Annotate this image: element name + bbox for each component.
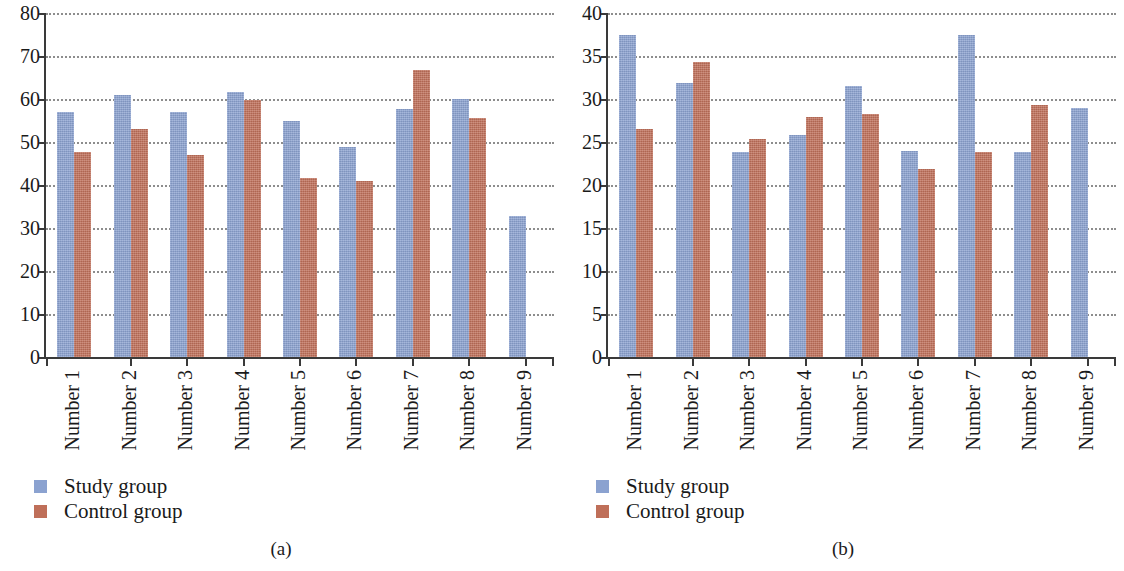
bar-control xyxy=(636,129,653,357)
y-axis-labels-a: 01020304050607080 xyxy=(0,0,44,372)
legend-item: Control group xyxy=(34,499,182,524)
x-tick-label: Number 5 xyxy=(288,370,308,451)
y-tick-mark xyxy=(39,142,46,144)
x-tick-mark xyxy=(1114,357,1116,366)
bar-study xyxy=(619,35,636,358)
bar-control xyxy=(749,139,766,357)
legend-swatch-icon xyxy=(34,505,47,518)
x-axis-labels-a: Number 1Number 2Number 3Number 4Number 5… xyxy=(44,366,552,472)
bar-study xyxy=(283,121,300,357)
x-tick-mark xyxy=(608,357,610,366)
bar-study xyxy=(1071,108,1088,357)
bar-group xyxy=(385,13,441,357)
y-tick-label: 40 xyxy=(582,3,602,23)
bar-control xyxy=(187,155,204,357)
y-axis-labels-b: 0510152025303540 xyxy=(562,0,606,372)
y-tick-label: 80 xyxy=(20,3,40,23)
legend-item: Control group xyxy=(596,499,744,524)
bar-study xyxy=(1014,152,1031,357)
legend-swatch-icon xyxy=(596,480,609,493)
x-label-cell: Number 7 xyxy=(383,366,439,472)
x-tick-mark xyxy=(917,357,919,366)
bar-study xyxy=(452,99,469,357)
bar-control xyxy=(975,152,992,357)
y-tick-mark xyxy=(601,185,608,187)
legend-swatch-icon xyxy=(34,480,47,493)
x-label-cell: Number 3 xyxy=(719,366,775,472)
y-tick-label: 25 xyxy=(582,132,602,152)
legend-swatch-icon xyxy=(596,505,609,518)
x-tick-label: Number 8 xyxy=(1019,370,1039,451)
x-tick-mark xyxy=(552,357,554,366)
legend-a: Study groupControl group xyxy=(34,474,182,524)
x-tick-label: Number 4 xyxy=(794,370,814,451)
bar-group xyxy=(664,13,720,357)
bar-group xyxy=(834,13,890,357)
x-label-cell: Number 7 xyxy=(945,366,1001,472)
x-tick-mark xyxy=(46,357,48,366)
x-tick-mark xyxy=(974,357,976,366)
bar-study xyxy=(227,92,244,357)
y-tick-mark xyxy=(601,357,608,359)
y-tick-mark xyxy=(39,13,46,15)
bar-control xyxy=(131,129,148,357)
bar-control xyxy=(1031,105,1048,357)
bar-control xyxy=(300,178,317,357)
bar-group xyxy=(1003,13,1059,357)
y-tick-mark xyxy=(39,56,46,58)
y-tick-label: 20 xyxy=(582,175,602,195)
bar-group xyxy=(608,13,664,357)
x-label-cell: Number 9 xyxy=(1058,366,1114,472)
bar-control xyxy=(918,169,935,357)
bar-study xyxy=(396,109,413,357)
plot-b: 0510152025303540 xyxy=(562,0,1124,372)
plot-area-b xyxy=(606,13,1116,359)
x-label-cell: Number 8 xyxy=(1001,366,1057,472)
bar-study xyxy=(509,216,526,357)
bar-group xyxy=(441,13,497,357)
x-tick-label: Number 6 xyxy=(906,370,926,451)
x-tick-label: Number 8 xyxy=(457,370,477,451)
x-label-cell: Number 4 xyxy=(775,366,831,472)
x-tick-label: Number 5 xyxy=(850,370,870,451)
y-tick-mark xyxy=(39,99,46,101)
y-tick-mark xyxy=(601,271,608,273)
bar-control xyxy=(244,100,261,357)
bar-group xyxy=(890,13,946,357)
x-tick-label: Number 3 xyxy=(175,370,195,451)
x-label-cell: Number 3 xyxy=(157,366,213,472)
bar-control xyxy=(862,114,879,357)
x-label-cell: Number 2 xyxy=(100,366,156,472)
legend-item: Study group xyxy=(34,474,182,499)
bar-control xyxy=(413,70,430,357)
x-label-cell: Number 4 xyxy=(213,366,269,472)
x-tick-mark xyxy=(692,357,694,366)
x-tick-mark xyxy=(355,357,357,366)
bar-group xyxy=(215,13,271,357)
bar-group xyxy=(721,13,777,357)
bar-group xyxy=(947,13,1003,357)
y-tick-label: 10 xyxy=(582,261,602,281)
bar-control xyxy=(693,62,710,357)
bar-group xyxy=(159,13,215,357)
bar-control xyxy=(356,181,373,357)
legend-label: Study group xyxy=(64,476,167,497)
y-tick-mark xyxy=(601,228,608,230)
y-tick-label: 30 xyxy=(582,89,602,109)
legend-label: Control group xyxy=(626,501,744,522)
y-tick-mark xyxy=(39,271,46,273)
x-tick-mark xyxy=(861,357,863,366)
x-label-cell: Number 5 xyxy=(832,366,888,472)
bar-control xyxy=(806,117,823,357)
bar-control xyxy=(469,118,486,357)
x-label-cell: Number 8 xyxy=(439,366,495,472)
x-tick-label: Number 2 xyxy=(681,370,701,451)
x-tick-mark xyxy=(468,357,470,366)
bar-group xyxy=(272,13,328,357)
figure-two-panel-bar-charts: 01020304050607080 Number 1Number 2Number… xyxy=(0,0,1124,571)
x-tick-mark xyxy=(130,357,132,366)
y-tick-label: 60 xyxy=(20,89,40,109)
bar-group xyxy=(102,13,158,357)
y-tick-mark xyxy=(601,99,608,101)
x-label-cell: Number 1 xyxy=(606,366,662,472)
